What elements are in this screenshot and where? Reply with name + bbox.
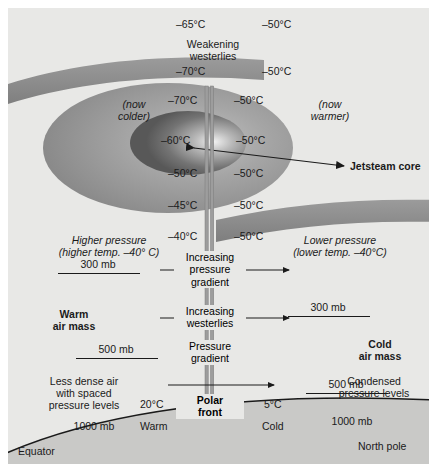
- pressure-level-1000-right: 1000 mb: [320, 415, 384, 427]
- increasing-pressure-gradient-label: Increasing pressure gradient: [174, 251, 246, 288]
- pressure-level-300-right: 300 mb: [296, 301, 360, 313]
- pressure-level-500-left: 500 mb: [84, 343, 148, 355]
- higher-pressure-label: Higher pressure (higher temp. –40° C): [26, 234, 192, 258]
- polar-front-label: Polar front: [176, 394, 244, 419]
- now-colder-label: (now colder): [104, 98, 164, 122]
- surface-air-cold: Cold: [262, 420, 284, 432]
- temp-label-core: –60°C: [161, 134, 190, 146]
- temp-label-e7: –45°C: [168, 199, 197, 211]
- temp-label-e4: –50°C: [236, 134, 265, 146]
- weakening-westerlies-label: Weakening westerlies: [158, 38, 268, 62]
- temp-label-e5: –50°C: [168, 167, 197, 179]
- pressure-level-line-300-right: [288, 316, 370, 317]
- warm-air-mass-label: Warm air mass: [36, 308, 112, 332]
- pressure-gradient-label: Pressure gradient: [174, 340, 246, 365]
- temp-label-top-left: –65°C: [176, 18, 205, 30]
- surface-air-warm: Warm: [140, 420, 168, 432]
- temp-label-top-right: –50°C: [262, 18, 291, 30]
- lower-pressure-label: Lower pressure (lower temp. –40°C): [260, 234, 420, 258]
- temp-label-e8: –50°C: [234, 199, 263, 211]
- pressure-level-line-500-left: [76, 358, 158, 359]
- diagram-panel: –65°C –50°C Weakening westerlies –70°C –…: [8, 8, 429, 464]
- pressure-level-1000-left: 1000 mb: [62, 420, 126, 432]
- temp-label-trop-right: –50°C: [262, 65, 291, 77]
- increasing-westerlies-label: Increasing westerlies: [174, 305, 246, 330]
- now-warmer-label: (now warmer): [298, 98, 362, 122]
- surface-temp-cold: 5°C: [264, 398, 282, 410]
- temp-label-e2: –50°C: [234, 94, 263, 106]
- pressure-level-line-300-left: [58, 273, 140, 274]
- less-dense-air-label: Less dense air with spaced pressure leve…: [28, 375, 140, 411]
- pressure-level-500-right: 500 mb: [314, 378, 378, 390]
- pressure-level-line-500-right: [306, 393, 388, 394]
- surface-temp-warm: 20°C: [140, 398, 163, 410]
- temp-label-e6: –50°C: [234, 167, 263, 179]
- cold-air-mass-label: Cold air mass: [346, 338, 414, 362]
- pressure-level-300-left: 300 mb: [66, 258, 130, 270]
- temp-label-e10: –50°C: [234, 230, 263, 242]
- temp-label-e1: –70°C: [168, 94, 197, 106]
- north-pole-label: North pole: [358, 440, 406, 452]
- temp-label-trop-left: –70°C: [176, 65, 205, 77]
- jetstream-core-label: Jetsteam core: [350, 160, 421, 172]
- equator-label: Equator: [18, 445, 55, 457]
